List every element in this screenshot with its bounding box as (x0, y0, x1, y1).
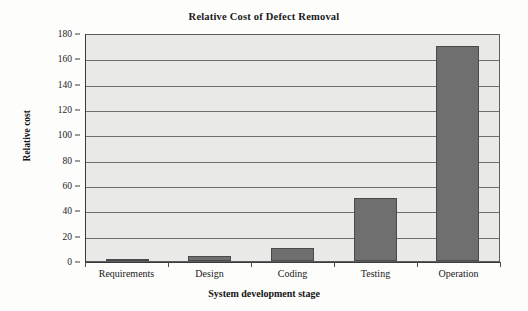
x-axis-tick-mark (334, 262, 335, 267)
bar-slot (86, 35, 169, 261)
plot-area (85, 34, 500, 262)
y-axis-tick-label: 120 (58, 105, 72, 115)
x-axis-tick-marks (85, 262, 500, 267)
bar-slot (169, 35, 252, 261)
x-axis-tick-label: Operation (417, 268, 500, 279)
x-axis-tick-label: Design (168, 268, 251, 279)
y-axis-tick-mark (75, 34, 80, 35)
y-axis-tick-mark (75, 160, 80, 161)
x-axis-tick-labels: RequirementsDesignCodingTestingOperation (85, 268, 500, 279)
y-axis-tick-mark (75, 84, 80, 85)
y-axis-tick-mark (75, 59, 80, 60)
y-axis-tick-mark (75, 110, 80, 111)
x-axis-tick-label: Testing (334, 268, 417, 279)
x-axis-tick-mark (85, 262, 86, 267)
bar-testing[interactable] (354, 198, 397, 261)
y-axis-tick-mark (75, 211, 80, 212)
x-axis-tick-label: Coding (251, 268, 334, 279)
y-axis-title: Relative cost (22, 110, 36, 161)
x-axis-tick-mark (500, 262, 501, 267)
bar-series (86, 35, 499, 261)
y-axis-tick-label: 100 (58, 130, 72, 140)
bar-design[interactable] (188, 256, 231, 261)
x-axis-tick-mark (251, 262, 252, 267)
y-axis-tick-mark (75, 186, 80, 187)
chart-title: Relative Cost of Defect Removal (0, 11, 528, 22)
bar-requirements[interactable] (106, 259, 149, 261)
y-axis-tick-labels: 180160140120100806040200 (40, 34, 80, 262)
bar-operation[interactable] (436, 46, 479, 261)
x-axis-tick-label: Requirements (85, 268, 168, 279)
y-axis-tick-label: 160 (58, 54, 72, 64)
y-axis-tick-mark (75, 135, 80, 136)
y-axis-tick-label: 180 (58, 29, 72, 39)
bar-slot (251, 35, 334, 261)
x-axis-tick-mark (168, 262, 169, 267)
y-axis-tick-mark (75, 262, 80, 263)
bar-slot (334, 35, 417, 261)
bar-coding[interactable] (271, 248, 314, 261)
y-axis-tick-label: 60 (63, 181, 73, 191)
y-axis-tick-label: 80 (63, 156, 73, 166)
bar-slot (416, 35, 499, 261)
chart-page: Relative Cost of Defect Removal Relative… (0, 0, 528, 311)
y-axis-tick-label: 0 (67, 257, 72, 267)
y-axis-tick-label: 20 (63, 232, 73, 242)
y-axis-tick-label: 140 (58, 80, 72, 90)
y-axis-tick-mark (75, 236, 80, 237)
x-axis-title: System development stage (0, 288, 528, 299)
y-axis-tick-label: 40 (63, 206, 73, 216)
y-axis-line (85, 34, 86, 263)
x-axis-tick-mark (417, 262, 418, 267)
